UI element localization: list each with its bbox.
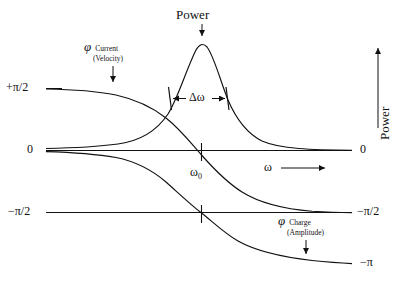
x-axis-label-omega: ω <box>264 161 272 173</box>
charge-annotation-paren: (Amplitude) <box>287 229 324 237</box>
left-tick-minus-half-pi: −π/2 <box>8 205 30 217</box>
power-title: Power <box>176 8 209 21</box>
right-tick-minus-half-pi: −π/2 <box>357 205 379 217</box>
omega0-label: ω0 <box>190 166 202 181</box>
resonance-figure: Power +π/2 0 −π/2 0 −π/2 −π Power ω0 ω Δ… <box>0 0 399 296</box>
right-tick-zero: 0 <box>360 143 366 155</box>
omega0-subscript: 0 <box>198 172 202 181</box>
left-tick-plus-half-pi: +π/2 <box>6 81 28 93</box>
bandwidth-label: Δω <box>189 91 205 103</box>
current-annotation-paren: (Velocity) <box>93 55 123 63</box>
current-phi-symbol: φ <box>84 39 91 54</box>
current-annotation: φ Current (Velocity) <box>84 38 123 63</box>
left-tick-zero: 0 <box>27 143 33 155</box>
right-tick-minus-pi: −π <box>360 256 373 268</box>
right-axis-label-power: Power <box>378 107 391 140</box>
charge-annotation-name: Charge <box>289 218 311 227</box>
figure-canvas <box>0 0 399 296</box>
bandwidth-tick-left <box>169 87 172 110</box>
bandwidth-tick-right <box>226 87 229 110</box>
current-annotation-name: Current <box>95 44 118 53</box>
charge-phi-symbol: φ <box>278 213 285 228</box>
charge-annotation: φ Charge (Amplitude) <box>278 212 324 237</box>
omega0-symbol: ω <box>190 165 198 179</box>
